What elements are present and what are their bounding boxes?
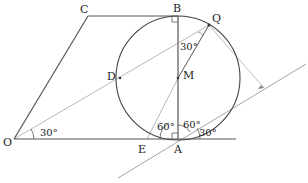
right-angle-A <box>172 133 178 139</box>
label-D: D <box>107 70 116 83</box>
angle-arc-Q <box>198 32 203 35</box>
angle-arc-O <box>31 129 34 139</box>
label-Q: Q <box>212 12 221 25</box>
angle-label-A-left: 60° <box>157 121 175 132</box>
label-M: M <box>183 69 194 82</box>
label-O: O <box>3 136 12 149</box>
point-Q <box>208 24 211 27</box>
angle-label-A-tangent: 30° <box>199 127 217 138</box>
point-D <box>119 77 122 80</box>
angle-label-Q: 30° <box>180 41 198 52</box>
segment-OC <box>14 16 88 139</box>
label-A: A <box>173 143 183 156</box>
geometry-diagram: C B Q D M O E A 30° 30° 60° 60° 30° <box>0 0 308 183</box>
label-E: E <box>138 143 146 156</box>
tangent-line <box>118 64 306 178</box>
angle-label-O: 30° <box>40 127 58 138</box>
right-angle-B <box>172 16 178 22</box>
label-B: B <box>173 2 181 15</box>
point-M <box>177 77 180 80</box>
label-C: C <box>80 3 88 16</box>
